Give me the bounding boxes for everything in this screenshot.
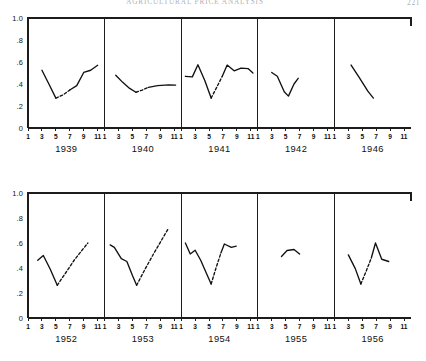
chart-row-svg: 1.0.8.6.4.201357911193913579111940135791… (0, 10, 426, 170)
data-series-line-dashed (136, 87, 149, 92)
data-series-line (185, 243, 211, 284)
data-series-line (272, 72, 298, 96)
panel-year-label: 1955 (285, 334, 307, 344)
data-series-line-dashed (137, 228, 169, 285)
panel-year-label: 1956 (362, 334, 384, 344)
x-axis-tick-label: 1 (333, 323, 337, 330)
x-axis-tick-label: 5 (207, 323, 211, 330)
data-series-line-dashed (57, 243, 88, 285)
panel-year-label: 1940 (132, 144, 154, 154)
x-axis-tick-label: 1 (26, 323, 30, 330)
x-axis-tick-label: 5 (54, 323, 58, 330)
x-axis-tick-label: 7 (221, 323, 225, 330)
x-axis-tick-label: 7 (221, 133, 225, 140)
panel-year-label: 1939 (55, 144, 77, 154)
x-axis-tick-label: 3 (346, 133, 350, 140)
data-series-line (38, 256, 58, 286)
x-axis-tick-label: 1 (26, 133, 30, 140)
x-axis-tick-label: 9 (235, 323, 239, 330)
y-axis-tick-label: 0 (19, 124, 23, 133)
x-axis-tick-label: 5 (54, 133, 58, 140)
x-axis-tick-label: 11 (247, 323, 254, 330)
x-axis-tick-label: 1 (179, 323, 183, 330)
x-axis-tick-label: 9 (158, 323, 162, 330)
data-series-line (110, 245, 136, 285)
y-axis-tick-label: .8 (16, 36, 23, 45)
y-axis-tick-label: .2 (16, 102, 23, 111)
x-axis-tick-label: 3 (346, 323, 350, 330)
panel-year-label: 1954 (208, 334, 230, 344)
page-folio-number: 221 (407, 0, 420, 7)
x-axis-tick-label: 11 (94, 323, 101, 330)
x-axis-tick-label: 9 (388, 323, 392, 330)
y-axis-tick-label: 1.0 (12, 189, 23, 198)
y-axis-tick-label: .6 (16, 239, 23, 248)
x-axis-tick-label: 9 (388, 133, 392, 140)
x-axis-tick-label: 11 (324, 133, 331, 140)
x-axis-tick-label: 3 (270, 323, 274, 330)
x-axis-tick-label: 1 (256, 133, 260, 140)
x-axis-tick-label: 5 (284, 133, 288, 140)
panel-year-label: 1941 (208, 144, 230, 154)
data-series-line (116, 75, 136, 92)
x-axis-tick-label: 7 (298, 133, 302, 140)
y-axis-tick-label: .2 (16, 289, 23, 298)
x-axis-tick-label: 9 (312, 323, 316, 330)
data-series-line (371, 243, 388, 262)
x-axis-tick-label: 9 (312, 133, 316, 140)
data-series-line (281, 250, 299, 257)
data-series-line-dashed (56, 90, 70, 98)
x-axis-tick-label: 5 (284, 323, 288, 330)
x-axis-tick-label: 11 (401, 323, 408, 330)
x-axis-tick-label: 3 (193, 133, 197, 140)
x-axis-tick-label: 9 (158, 133, 162, 140)
data-series-line (70, 65, 98, 90)
y-axis-tick-label: 1.0 (12, 14, 23, 23)
x-axis-tick-label: 3 (270, 133, 274, 140)
chart-row-top: 1.0.8.6.4.201357911193913579111940135791… (0, 10, 426, 170)
x-axis-tick-label: 1 (103, 323, 107, 330)
x-axis-tick-label: 9 (82, 133, 86, 140)
x-axis-tick-label: 7 (145, 133, 149, 140)
x-axis-tick-label: 1 (179, 133, 183, 140)
data-series-line-dashed (211, 253, 221, 284)
chart-row-svg: 1.0.8.6.4.201357911195213579111953135791… (0, 183, 426, 361)
data-series-line (351, 65, 373, 98)
x-axis-tick-label: 11 (171, 133, 178, 140)
y-axis-tick-label: 0 (19, 314, 23, 323)
running-head-title: Agricultural Price Analysis (0, 0, 390, 6)
x-axis-tick-label: 5 (131, 133, 135, 140)
panel-year-label: 1952 (55, 334, 77, 344)
data-series-line (221, 244, 236, 253)
x-axis-tick-label: 3 (117, 323, 121, 330)
data-series-line (185, 65, 211, 98)
data-series-line-dashed (361, 258, 371, 284)
chart-row-bottom: 1.0.8.6.4.201357911195213579111953135791… (0, 183, 426, 361)
y-axis-tick-label: .4 (16, 264, 23, 273)
y-axis-tick-label: .8 (16, 214, 23, 223)
data-series-line-dashed (211, 76, 222, 98)
x-axis-tick-label: 11 (247, 133, 254, 140)
x-axis-tick-label: 7 (374, 323, 378, 330)
x-axis-tick-label: 7 (374, 133, 378, 140)
x-axis-tick-label: 5 (360, 133, 364, 140)
x-axis-tick-label: 3 (40, 323, 44, 330)
x-axis-tick-label: 7 (68, 133, 72, 140)
data-series-line (148, 85, 175, 87)
x-axis-tick-label: 3 (193, 323, 197, 330)
y-axis-tick-label: .4 (16, 80, 23, 89)
x-axis-tick-label: 11 (171, 323, 178, 330)
x-axis-tick-label: 9 (235, 133, 239, 140)
data-series-line (222, 65, 253, 76)
x-axis-tick-label: 11 (94, 133, 101, 140)
panel-year-label: 1953 (132, 334, 154, 344)
x-axis-tick-label: 5 (207, 133, 211, 140)
x-axis-tick-label: 3 (40, 133, 44, 140)
x-axis-tick-label: 7 (68, 323, 72, 330)
x-axis-tick-label: 3 (117, 133, 121, 140)
x-axis-tick-label: 1 (103, 133, 107, 140)
x-axis-tick-label: 1 (333, 133, 337, 140)
x-axis-tick-label: 9 (82, 323, 86, 330)
data-series-line (348, 255, 361, 284)
x-axis-tick-label: 11 (324, 323, 331, 330)
